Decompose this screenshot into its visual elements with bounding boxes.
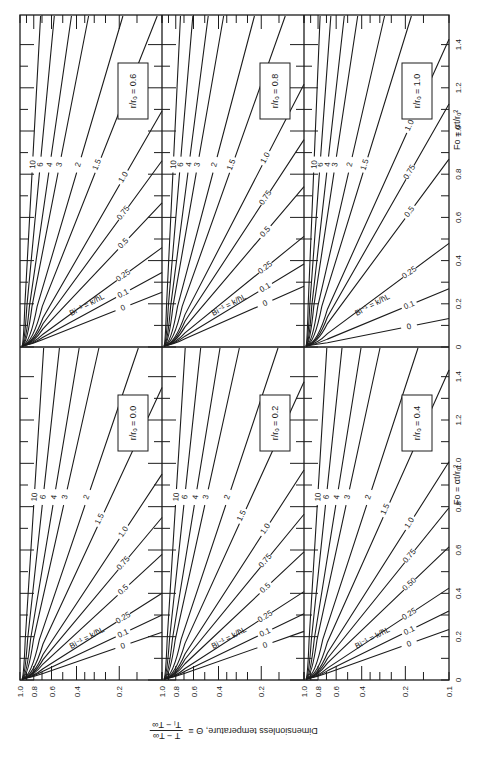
theta-tick-label: 0.1	[445, 685, 454, 697]
fo-tick-label: 0.4	[454, 587, 463, 599]
theta-tick-label: 0.2	[401, 685, 410, 697]
curve-label: 0.25	[400, 606, 418, 622]
curve-label: 0.25	[114, 610, 132, 626]
fo-tick-label: 0.2	[454, 298, 463, 310]
r-ro-label: r/rₒ = 0.2	[270, 406, 280, 441]
r-ro-label: r/rₒ = 0.0	[128, 406, 138, 441]
theta-tick-label: 0.6	[190, 685, 199, 697]
theta-axis-label: Dimensionless temperature, Θ ≡	[188, 726, 317, 736]
theta-tick-label: 0.8	[172, 685, 181, 697]
theta-tick-label: 0.4	[358, 685, 367, 697]
fo-axis-title-bottom: Fo = αt/rₒ²	[452, 465, 462, 505]
curve-label: 0.25	[400, 264, 418, 281]
theta-tick-label: 0.2	[257, 685, 266, 697]
bi-family-label: Bi⁻¹ = k/h̄L	[354, 625, 392, 651]
r-ro-label: r/rₒ = 0.6	[128, 74, 138, 109]
curve-label: 0.75	[402, 163, 418, 181]
bi-family-label: Bi⁻¹ = k/h̄L	[210, 625, 248, 651]
fo-tick-label: 0.6	[454, 544, 463, 556]
bi-curve	[22, 348, 44, 679]
theta-tick-label: 1.0	[16, 685, 25, 697]
curve-label: 0.75	[257, 188, 273, 206]
theta-tick-label: 0.4	[73, 685, 82, 697]
fo-axis-title-top: Fo = αt/rₒ²	[452, 110, 462, 150]
fo-tick-label: 0.8	[454, 168, 463, 180]
bi-curve	[164, 348, 220, 679]
curve-label: 10	[169, 159, 178, 169]
curve-label: 10	[313, 492, 323, 502]
theta-tick-label: 0.2	[115, 685, 124, 697]
theta-tick-label: 0.6	[48, 685, 57, 697]
fo-tick-label: 1.2	[454, 414, 463, 426]
r-ro-label: r/rₒ = 0.8	[270, 74, 280, 109]
fo-tick-label: 0.2	[454, 631, 463, 643]
curve-label: 10	[310, 159, 319, 169]
fo-tick-label: 1.4	[454, 38, 463, 50]
theta-fraction-denominator: Tᵢ − T∞	[150, 720, 183, 730]
bi-curve	[22, 348, 79, 679]
theta-tick-label: 0.6	[332, 685, 341, 697]
fo-tick-label: 0	[454, 677, 463, 682]
fo-tick-label: 0	[454, 344, 463, 349]
bi-curve	[306, 318, 449, 346]
fo-tick-label: 1.2	[454, 82, 463, 94]
curve-label: 0.25	[256, 608, 274, 624]
bi-family-label: Bi⁻¹ = k/h̄L	[68, 625, 106, 651]
fo-tick-label: 0.6	[454, 211, 463, 223]
curve-label: 0.25	[114, 267, 132, 284]
curve-label: 0.25	[256, 259, 274, 276]
theta-tick-label: 0.8	[314, 685, 323, 697]
r-ro-label: r/rₒ = 0.4	[412, 406, 422, 441]
curve-label: 10	[30, 492, 40, 502]
bi-curve	[164, 236, 304, 346]
theta-fraction-numerator: T − T∞	[150, 730, 183, 741]
theta-tick-label: 0.8	[30, 685, 39, 697]
fo-tick-label: 1.4	[454, 371, 463, 383]
bi-curve	[164, 348, 185, 679]
fo-tick-label: 0.4	[454, 254, 463, 266]
bi-curve	[22, 272, 162, 346]
theta-axis-title: Dimensionless temperature, Θ ≡ T − T∞ Tᵢ…	[150, 720, 318, 741]
curve-label: 10	[28, 159, 38, 169]
curve-label: 10	[171, 492, 181, 502]
heisler-chart: 00.20.40.60.81.01.21.400.20.40.60.81.01.…	[0, 0, 499, 761]
bi-curve	[306, 243, 449, 346]
bi-family-label: Bi⁻¹ = k/h̄L	[354, 292, 392, 318]
bi-curve	[22, 16, 123, 346]
theta-tick-label: 0.4	[215, 685, 224, 697]
theta-tick-label: 1.0	[158, 685, 167, 697]
r-ro-label: r/rₒ = 1.0	[412, 74, 422, 109]
bi-curve	[306, 16, 411, 346]
theta-tick-label: 1.0	[300, 685, 309, 697]
